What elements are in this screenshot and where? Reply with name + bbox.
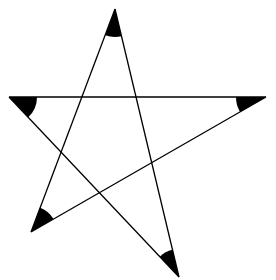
angle-marker-bottom-left xyxy=(31,208,54,232)
star-figure xyxy=(0,0,276,280)
angle-marker-left xyxy=(9,97,37,117)
star-edges xyxy=(9,9,266,277)
edge-top-to-bottom-right xyxy=(115,9,179,277)
edge-left-to-bottom-right xyxy=(9,97,179,277)
pentagram-diagram xyxy=(0,0,276,280)
angle-markers xyxy=(9,9,266,277)
edge-right-to-bottom-left xyxy=(31,97,266,232)
edge-top-to-bottom-left xyxy=(31,9,115,232)
